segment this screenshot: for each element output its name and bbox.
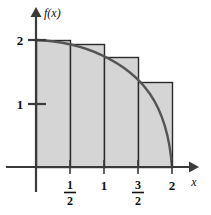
fraction-numerator: 1 xyxy=(67,178,73,192)
riemann-rectangles xyxy=(37,41,173,168)
rectangle-4 xyxy=(139,83,173,168)
riemann-sum-figure: 2 1 1 2 1 3 2 2 f(x) x xyxy=(0,0,211,215)
x-tick-label-one: 1 xyxy=(101,178,108,193)
x-tick-label-three-halves: 3 2 xyxy=(132,178,144,208)
x-tick-label-two: 2 xyxy=(169,178,176,193)
fraction-numerator: 3 xyxy=(135,178,141,192)
y-axis-label: f(x) xyxy=(44,6,61,20)
y-tick-label-1: 1 xyxy=(17,97,24,112)
y-axis-arrowhead xyxy=(31,7,42,17)
x-tick-label-one-half: 1 2 xyxy=(64,178,76,208)
fraction-denominator: 2 xyxy=(135,194,141,208)
figure-canvas: 2 1 1 2 1 3 2 2 f(x) x xyxy=(0,0,211,215)
fraction-denominator: 2 xyxy=(67,194,73,208)
x-axis-label: x xyxy=(190,175,197,189)
x-axis-arrowhead xyxy=(189,162,199,173)
rectangle-2 xyxy=(71,45,105,168)
y-tick-label-2: 2 xyxy=(17,33,24,48)
